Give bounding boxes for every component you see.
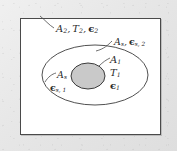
leader-line-outer-surface bbox=[40, 16, 54, 28]
shield-inner-area: As bbox=[57, 70, 67, 83]
outer-surface-temperature: T2, bbox=[72, 23, 86, 34]
outer-surface-emissivity: ϵ2 bbox=[88, 23, 98, 34]
shield-inner-side-label: As ϵs, 1 bbox=[57, 70, 67, 96]
outer-surface-area: A2, bbox=[56, 23, 70, 34]
shield-outer-area: As, bbox=[114, 36, 127, 47]
shield-inner-emissivity: ϵs, 1 bbox=[50, 83, 67, 96]
leader-line-shield-inner bbox=[45, 73, 56, 82]
inner-surface-label: A1 T1 ϵ1 bbox=[110, 55, 121, 94]
shield-outer-side-label: As,ϵs, 2 bbox=[114, 37, 147, 48]
leader-line-inner-surface bbox=[99, 58, 110, 66]
outer-surface-label: A2,T2,ϵ2 bbox=[56, 24, 100, 35]
inner-surface-emissivity: ϵ1 bbox=[110, 81, 121, 94]
shield-outer-emissivity: ϵs, 2 bbox=[129, 36, 145, 47]
inner-body-ellipse bbox=[71, 63, 105, 89]
figure-root: A2,T2,ϵ2 As,ϵs, 2 A1 T1 ϵ1 As ϵs, 1 bbox=[0, 0, 177, 151]
